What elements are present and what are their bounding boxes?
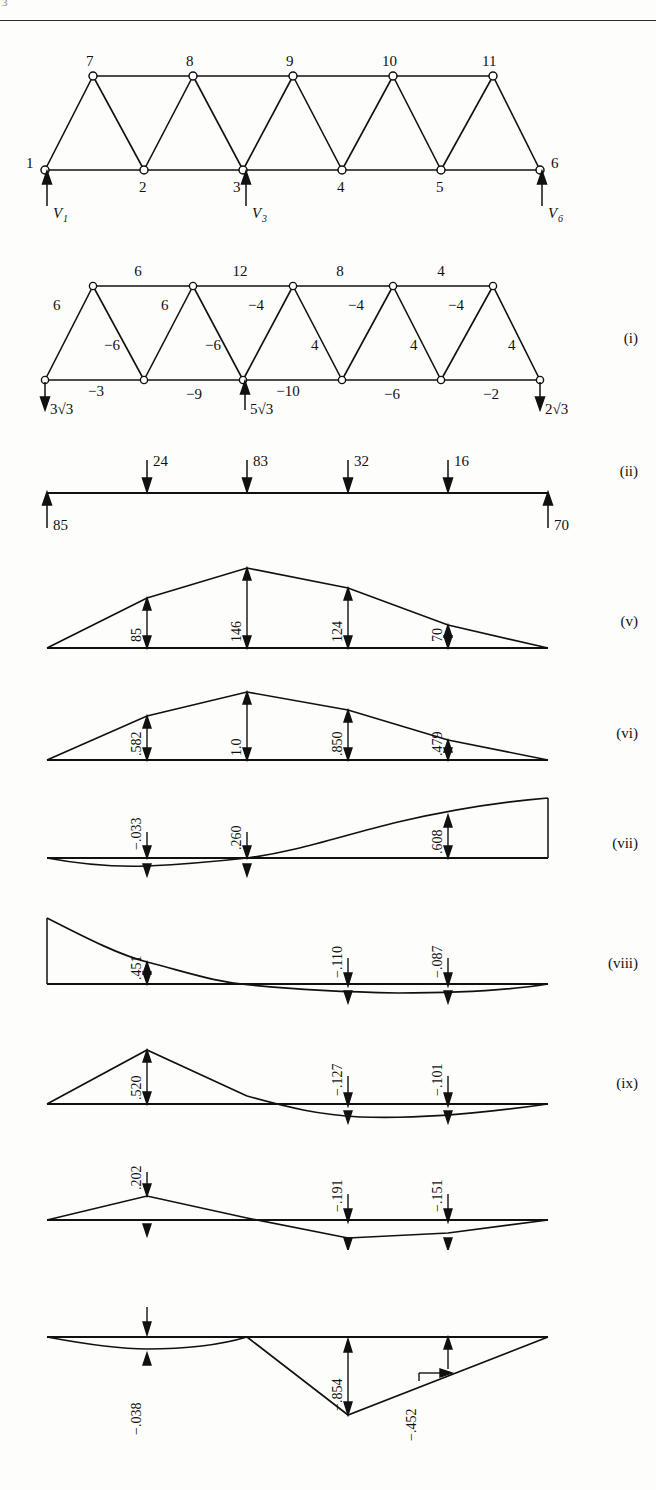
panel-ix-dim-arrows: [143, 1307, 452, 1415]
panel-iii-curve: [47, 568, 548, 648]
truss-reaction-sub-V6: 6: [558, 213, 563, 224]
panel-vii-value-1: .520: [129, 1076, 144, 1101]
panel-iv-value-4: .479: [430, 732, 445, 757]
panel-vi-dim-arrows: [143, 958, 452, 1003]
panel-ii-point-loads: [143, 460, 453, 492]
panel-iii-value-1: 85: [129, 628, 144, 642]
panel-viii-value-2: −.191: [330, 1180, 345, 1212]
panel-vi-svg: .451 −.110 −.087: [0, 900, 656, 1010]
panel-vi-value-1: .451: [129, 956, 144, 981]
panel-i-svg: 6 12 8 4 −3 −9 −10 −6 −2 6 −6 6 −6 −4 4 …: [0, 252, 656, 417]
panel-i-bot-force-2: −9: [186, 386, 202, 402]
panel-iii-value-2: 146: [229, 621, 244, 642]
panel-i-diag-force-10: 4: [508, 337, 516, 353]
panel-i-load-label-3: 2√3: [545, 401, 568, 417]
panel-i-top-force-3: 8: [336, 263, 344, 279]
panel-ix-curve-left: [47, 1337, 247, 1349]
panel-label-iii: (v): [621, 613, 639, 630]
panel-label-ii: (ii): [620, 463, 638, 480]
panel-i-diag-force-3: 6: [161, 297, 169, 313]
panel-iv-curve: [47, 692, 548, 760]
panel-iii-influence-line: 85 146 124 70: [0, 556, 656, 661]
truss-node-label-5: 5: [436, 179, 444, 195]
panel-label-v: (vii): [612, 835, 638, 852]
panel-i-top-force-1: 6: [134, 263, 142, 279]
panel-ii-reaction-arrows: [43, 492, 553, 528]
truss-diagram-panel: 1 2 3 4 5 6 7 8 9 10 11 V 1 V 3 V 6: [0, 50, 656, 230]
panel-i-bot-force-4: −6: [384, 386, 400, 402]
panel-ii-load-label-1: 24: [153, 453, 169, 469]
panel-vii-influence-line: .520 −.127 −.101: [0, 1020, 656, 1130]
truss-reaction-sub-V3: 3: [261, 213, 267, 224]
panel-i-member-forces: 6 12 8 4 −3 −9 −10 −6 −2 6 −6 6 −6 −4 4 …: [0, 252, 656, 417]
panel-vii-value-2: −.127: [330, 1064, 345, 1096]
panel-v-value-2: .260: [229, 826, 244, 851]
panel-vii-value-3: −.101: [430, 1064, 445, 1096]
panel-vi-value-3: −.087: [430, 946, 445, 978]
panel-ii-reaction-label-right: 70: [554, 517, 569, 533]
panel-iv-value-2: 1.0: [229, 739, 244, 757]
panel-iv-svg: .582 1.0 .850 .479: [0, 668, 656, 773]
panel-label-vi: (viii): [608, 955, 638, 972]
page-header-crumb: 3: [2, 0, 8, 8]
panel-viii-dim-arrows: [143, 1172, 452, 1250]
panel-vi-influence-line: .451 −.110 −.087: [0, 900, 656, 1010]
panel-i-bot-force-1: −3: [88, 383, 104, 399]
panel-v-curve: [47, 798, 548, 866]
panel-viii-curve: [47, 1196, 548, 1238]
panel-i-load-label-2: 5√3: [250, 401, 273, 417]
panel-vii-dim-arrows: [143, 1050, 452, 1123]
truss-node-label-10: 10: [382, 53, 397, 69]
panel-iii-value-3: 124: [330, 621, 345, 642]
panel-ii-load-label-3: 32: [354, 453, 369, 469]
panel-iv-dim-arrows: [143, 692, 452, 760]
panel-i-top-force-2: 12: [233, 263, 248, 279]
panel-vi-curve: [47, 918, 548, 993]
panel-i-diag-force-5: −4: [248, 297, 264, 313]
truss-node-label-7: 7: [86, 53, 94, 69]
panel-iv-value-1: .582: [129, 732, 144, 757]
panel-i-top-force-4: 4: [437, 263, 445, 279]
panel-vii-svg: .520 −.127 −.101: [0, 1020, 656, 1130]
truss-node-label-11: 11: [482, 53, 496, 69]
panel-i-diag-force-9: −4: [448, 297, 464, 313]
truss-node-label-9: 9: [286, 53, 294, 69]
panel-ix-value-2: −.854: [330, 1379, 345, 1411]
panel-label-iv: (vi): [616, 725, 638, 742]
panel-viii-value-1: .202: [129, 1166, 144, 1191]
panel-ii-reaction-label-left: 85: [53, 517, 68, 533]
figure-page: 3: [0, 0, 656, 1490]
panel-i-diag-force-4: −6: [205, 337, 221, 353]
panel-i-members: [45, 286, 540, 380]
truss-node-label-8: 8: [186, 53, 194, 69]
panel-i-load-label-1: 3√3: [50, 401, 73, 417]
truss-reaction-arrows: [43, 171, 547, 206]
truss-node-label-1: 1: [26, 155, 34, 171]
panel-label-vii: (ix): [616, 1075, 638, 1092]
panel-iii-svg: 85 146 124 70: [0, 556, 656, 661]
panel-viii-influence-line: .202 −.191 −.151: [0, 1140, 656, 1250]
panel-ix-svg: −.038 −.854 −.452: [0, 1285, 656, 1455]
truss-reaction-sub-V1: 1: [63, 213, 68, 224]
panel-ix-curve-right: [247, 1337, 548, 1415]
panel-iii-dim-arrows: [143, 568, 452, 648]
panel-label-i: (i): [624, 330, 638, 347]
panel-v-dim-arrows: [143, 815, 452, 876]
panel-i-bot-force-5: −2: [483, 386, 499, 402]
panel-ii-load-beam: 24 83 32 16 85 70: [0, 448, 656, 543]
truss-node-label-4: 4: [337, 179, 345, 195]
panel-ii-load-label-2: 83: [253, 453, 268, 469]
panel-v-svg: −.033 .260 .608: [0, 788, 656, 898]
panel-ix-value-3: −.452: [404, 1409, 419, 1441]
panel-ix-influence-line: −.038 −.854 −.452: [0, 1285, 656, 1455]
truss-members: [45, 76, 540, 170]
panel-ii-svg: 24 83 32 16 85 70: [0, 448, 656, 543]
panel-i-diag-force-7: −4: [348, 297, 364, 313]
panel-iv-value-3: .850: [330, 732, 345, 757]
truss-node-label-3: 3: [233, 179, 241, 195]
header-divider: [0, 20, 656, 21]
panel-i-bot-force-3: −10: [276, 383, 299, 399]
panel-ii-load-label-4: 16: [454, 453, 470, 469]
panel-v-value-3: .608: [430, 830, 445, 855]
panel-v-influence-line: −.033 .260 .608: [0, 788, 656, 898]
